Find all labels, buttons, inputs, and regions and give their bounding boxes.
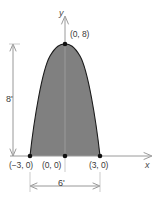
point-left-marker [28,154,33,159]
point-label-right: (3, 0) [89,161,108,170]
point-label-apex: (0, 8) [70,30,89,39]
figure-container: y x (0, 8) (−3, 0) (0, 0) (3, 0) 8' 6' [0,0,162,201]
point-label-left: (−3, 0) [9,161,33,170]
point-right-marker [98,154,103,159]
x-axis-label: x [145,161,149,170]
y-axis-label: y [59,9,63,18]
point-apex-marker [63,42,68,47]
height-dimension-label: 8' [6,95,13,104]
point-origin-marker [63,154,68,159]
width-dimension-label: 6' [58,179,65,188]
point-label-origin: (0, 0) [42,161,61,170]
